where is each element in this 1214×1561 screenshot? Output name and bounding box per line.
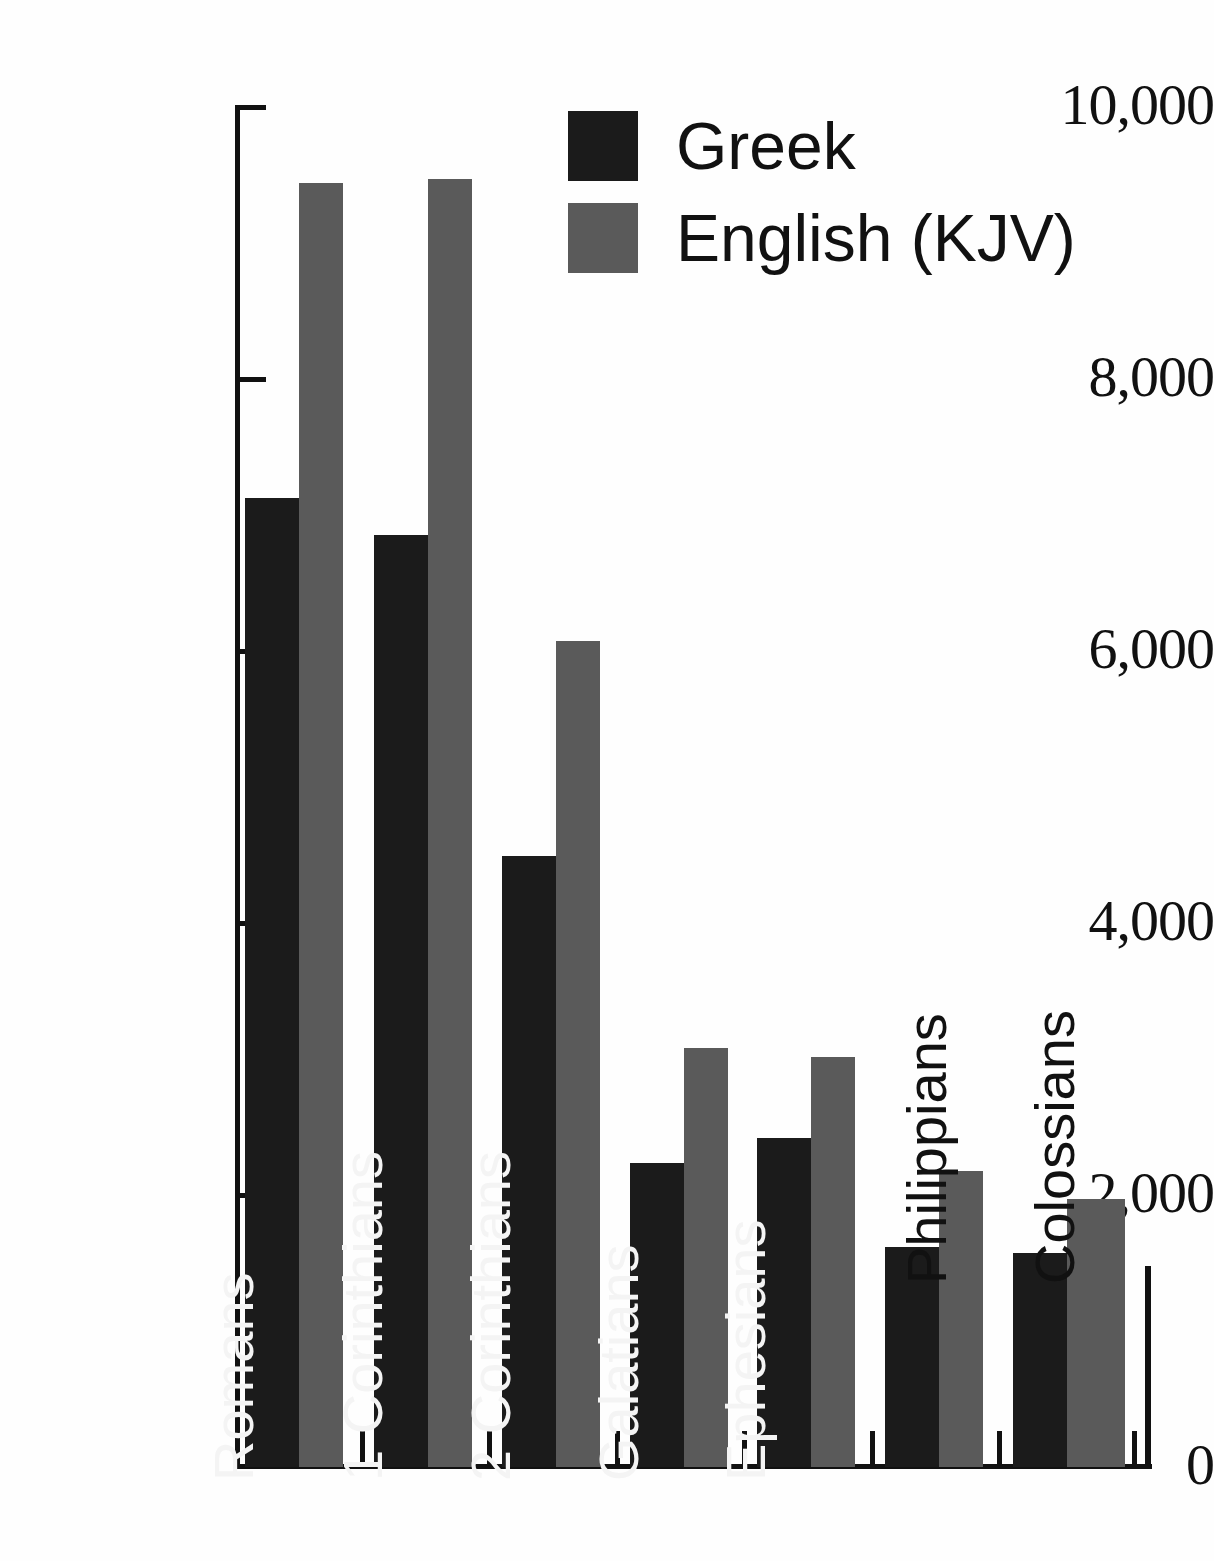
plot-area: 10,000 8,000 6,000 4,000 2,000 0 (0, 0, 1214, 1561)
category-label-ephesians: Ephesians (718, 1219, 774, 1481)
y-tick-8000 (236, 377, 266, 382)
category-label-philippians: Philippians (899, 1013, 955, 1284)
x-tick-group-5 (870, 1431, 875, 1467)
y-tick-10000 (236, 105, 266, 110)
category-label-romans: Romans (206, 1272, 262, 1481)
x-tick-group-6 (997, 1431, 1002, 1467)
x-tick-group-7 (1132, 1431, 1137, 1467)
category-label-1-corinthians: 1 Corinthians (335, 1151, 391, 1481)
category-label-2-corinthians: 2 Corinthians (463, 1151, 519, 1481)
plot-right-rule (1145, 1266, 1151, 1469)
legend-item-greek: Greek (568, 100, 1076, 192)
chart-legend: Greek English (KJV) (568, 100, 1076, 284)
category-label-galatians: Galatians (591, 1244, 647, 1481)
bar-greek-colossians (1013, 1253, 1067, 1467)
bar-chart: 10,000 8,000 6,000 4,000 2,000 0 (0, 0, 1214, 1561)
legend-item-english: English (KJV) (568, 192, 1076, 284)
y-axis-label-4000: 4,000 (1024, 892, 1214, 950)
legend-swatch-english-icon (568, 203, 638, 273)
legend-label-english: English (KJV) (676, 205, 1076, 271)
category-label-colossians: Colossians (1027, 1010, 1083, 1284)
legend-swatch-greek-icon (568, 111, 638, 181)
y-axis-spine (235, 105, 240, 1469)
bar-english-ephesians (811, 1057, 855, 1467)
legend-label-greek: Greek (676, 113, 856, 179)
y-axis-label-8000: 8,000 (1024, 348, 1214, 406)
y-axis-label-6000: 6,000 (1024, 620, 1214, 678)
